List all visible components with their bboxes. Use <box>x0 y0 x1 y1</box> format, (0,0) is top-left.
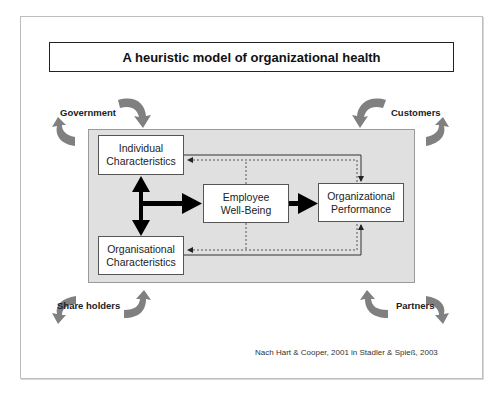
citation: Nach Hart & Cooper, 2001 in Stadler & Sp… <box>255 348 438 357</box>
government-arrow-in <box>118 98 151 128</box>
customers-arrow-out <box>426 117 449 146</box>
label-share-holders: Share holders <box>57 300 120 311</box>
label-partners: Partners <box>396 300 435 311</box>
label-customers: Customers <box>391 107 441 118</box>
label-government: Government <box>60 107 116 118</box>
node-individual-characteristics: Individual Characteristics <box>98 135 184 175</box>
node-organizational-performance: Organizational Performance <box>318 183 404 222</box>
government-arrow-out <box>52 117 75 146</box>
partners-arrow-in <box>360 290 388 318</box>
customers-arrow-in <box>352 98 386 128</box>
node-organisational-characteristics: Organisational Characteristics <box>98 236 184 275</box>
node-employee-well-being: Employee Well-Being <box>203 184 289 223</box>
shareholders-arrow-in <box>124 290 151 318</box>
